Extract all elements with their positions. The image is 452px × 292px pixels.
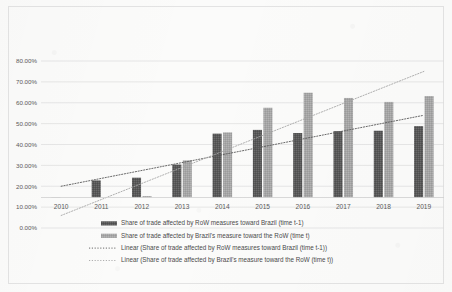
- chart-container: 0.00%10.00%20.00%30.00%40.00%50.00%60.00…: [0, 0, 452, 292]
- x-axis-tick-label: 2011: [94, 203, 109, 210]
- bar: [344, 98, 353, 198]
- bar: [183, 160, 192, 197]
- trendline: [61, 115, 424, 186]
- bar: [425, 96, 434, 197]
- y-axis-tick-label: 40.00%: [16, 141, 37, 148]
- y-axis-tick-label: 80.00%: [16, 57, 37, 64]
- x-axis-tick-label: 2019: [417, 203, 432, 210]
- trendlines-group: [61, 71, 424, 215]
- x-axis-tick-label: 2013: [175, 203, 190, 210]
- x-axis-tick-label: 2015: [255, 203, 270, 210]
- x-axis-tick-label: 2010: [54, 203, 69, 210]
- bar: [293, 133, 302, 197]
- bars-group: [51, 93, 433, 198]
- legend-swatch: [101, 234, 117, 238]
- y-axis-tick-label: 10.00%: [16, 203, 37, 210]
- bar: [132, 178, 141, 198]
- chart-svg: 0.00%10.00%20.00%30.00%40.00%50.00%60.00…: [0, 0, 452, 292]
- x-axis-labels: 2010201120122013201420152016201720182019: [54, 203, 432, 210]
- x-axis-tick-label: 2012: [134, 203, 149, 210]
- x-axis-tick-label: 2016: [296, 203, 311, 210]
- y-axis-tick-label: 0.00%: [19, 224, 37, 231]
- bar: [92, 180, 101, 197]
- x-axis-tick-label: 2014: [215, 203, 230, 210]
- y-axis-tick-label: 70.00%: [16, 78, 37, 85]
- bar: [384, 102, 393, 198]
- y-axis-tick-label: 30.00%: [16, 162, 37, 169]
- bar: [213, 134, 222, 198]
- y-axis-tick-label: 20.00%: [16, 183, 37, 190]
- legend-item-label: Share of trade affected by RoW measures …: [121, 219, 304, 227]
- legend: Share of trade affected by RoW measures …: [89, 219, 333, 264]
- legend-swatch: [101, 221, 117, 225]
- bar: [304, 93, 313, 198]
- legend-item-label: Linear (Share of trade affected by Brazi…: [121, 256, 333, 264]
- legend-item-label: Share of trade affected by Brazil's meas…: [121, 232, 310, 240]
- bar: [333, 131, 342, 197]
- bar: [253, 130, 262, 198]
- y-axis-tick-label: 50.00%: [16, 120, 37, 127]
- bar: [263, 108, 272, 198]
- y-axis-labels: 0.00%10.00%20.00%30.00%40.00%50.00%60.00…: [16, 57, 37, 231]
- trendline: [61, 71, 424, 215]
- legend-item-label: Linear (Share of trade affected by RoW m…: [121, 244, 327, 252]
- bar: [414, 126, 423, 197]
- bar: [223, 132, 232, 197]
- x-axis-tick-label: 2018: [376, 203, 391, 210]
- x-axis-tick-label: 2017: [336, 203, 351, 210]
- bar: [374, 131, 383, 198]
- y-axis-tick-label: 60.00%: [16, 99, 37, 106]
